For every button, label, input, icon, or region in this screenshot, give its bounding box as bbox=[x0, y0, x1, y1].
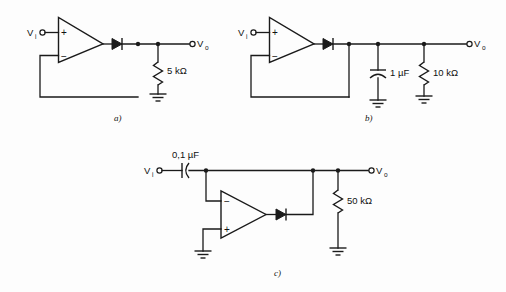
circuit-a-output-label: V bbox=[197, 38, 204, 49]
circuit-b-diode-triangle bbox=[323, 39, 333, 50]
circuit-b-input-terminal bbox=[251, 30, 256, 35]
circuit-a-input-label: V bbox=[27, 27, 34, 38]
circuit-b-output-terminal bbox=[467, 41, 472, 46]
circuit-a-opamp-plus-sign: + bbox=[61, 27, 67, 38]
circuit-c: V i 0,1 µF V o − + bbox=[144, 149, 388, 278]
circuit-c-caption: c) bbox=[274, 268, 281, 278]
circuit-c-output-sublabel: o bbox=[384, 171, 388, 178]
circuit-c-output-terminal bbox=[369, 168, 374, 173]
circuit-b-resistor-value: 10 kΩ bbox=[433, 67, 458, 78]
circuit-b-feedback-wire bbox=[251, 56, 349, 98]
circuit-a-input-sublabel: i bbox=[35, 33, 36, 40]
circuit-b-opamp-minus-sign: − bbox=[272, 51, 278, 62]
circuit-b-capacitor-value: 1 µF bbox=[390, 67, 409, 78]
circuit-c-input-terminal bbox=[157, 168, 162, 173]
circuit-c-capacitor-value: 0,1 µF bbox=[172, 149, 199, 160]
circuit-b: V i + − V o 1 µF 10 kΩ bbox=[238, 18, 486, 124]
circuit-c-resistor-value: 50 kΩ bbox=[347, 195, 372, 206]
circuit-b-opamp-plus-sign: + bbox=[272, 27, 278, 38]
circuit-figure-sheet: V i + − V o 5 kΩ a) bbox=[0, 0, 506, 292]
circuit-c-feedback-return-wire bbox=[286, 171, 313, 215]
circuit-b-input-sublabel: i bbox=[246, 33, 247, 40]
circuit-b-caption: b) bbox=[365, 113, 373, 123]
circuit-a-diode-triangle bbox=[112, 39, 122, 50]
circuit-a-feedback-node bbox=[136, 42, 140, 46]
circuit-a-input-terminal bbox=[40, 30, 45, 35]
circuit-b-feedback-node bbox=[347, 42, 351, 46]
circuit-c-diode-triangle bbox=[276, 209, 286, 220]
circuit-a-caption: a) bbox=[114, 113, 122, 123]
circuit-c-noninverting-input-wire bbox=[203, 229, 221, 251]
circuit-c-resistor-zigzag bbox=[334, 190, 343, 213]
circuit-c-input-sublabel: i bbox=[152, 171, 153, 178]
circuit-a-output-terminal bbox=[190, 41, 195, 46]
circuit-a: V i + − V o 5 kΩ a) bbox=[27, 18, 209, 124]
circuit-c-inverting-input-wire bbox=[206, 171, 221, 202]
circuit-b-input-label: V bbox=[238, 27, 245, 38]
circuit-c-opamp-plus-sign: + bbox=[224, 224, 230, 235]
circuit-a-output-sublabel: o bbox=[205, 44, 209, 51]
circuit-diagram-canvas: V i + − V o 5 kΩ a) bbox=[0, 0, 506, 292]
circuit-c-opamp-minus-sign: − bbox=[224, 196, 230, 207]
circuit-a-opamp-minus-sign: − bbox=[61, 51, 67, 62]
circuit-a-resistor-value: 5 kΩ bbox=[167, 65, 187, 76]
circuit-a-feedback-wire bbox=[40, 56, 138, 98]
circuit-a-resistor-zigzag bbox=[154, 62, 163, 85]
circuit-b-output-sublabel: o bbox=[482, 44, 486, 51]
circuit-b-resistor-zigzag bbox=[420, 62, 429, 85]
circuit-b-output-label: V bbox=[474, 38, 481, 49]
circuit-c-input-label: V bbox=[144, 165, 151, 176]
circuit-c-output-label: V bbox=[376, 165, 383, 176]
